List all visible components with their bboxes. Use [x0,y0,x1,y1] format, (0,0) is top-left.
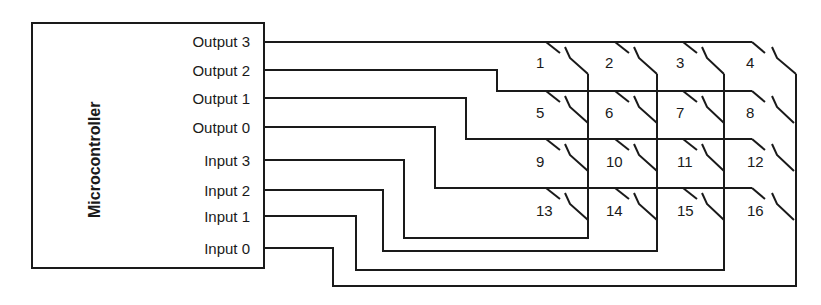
switch-12: 12 [747,139,794,171]
microcontroller-label: Microcontroller [86,102,103,218]
switch-3: 3 [676,42,724,74]
svg-text:5: 5 [536,104,544,121]
pin-label-input-0: Input 0 [204,240,250,257]
pin-label-output-3: Output 3 [192,33,250,50]
svg-text:14: 14 [606,202,623,219]
wire-input-1 [264,74,724,270]
svg-text:3: 3 [676,54,684,71]
svg-text:12: 12 [747,153,764,170]
switch-14: 14 [606,188,657,220]
svg-text:16: 16 [747,202,764,219]
switch-4: 4 [746,42,796,74]
microcontroller-block [32,23,264,268]
svg-text:11: 11 [677,153,693,170]
pin-label-output-1: Output 1 [192,90,250,107]
pin-label-input-3: Input 3 [204,152,250,169]
svg-text:2: 2 [605,54,613,71]
switch-8: 8 [746,91,794,123]
switch-15: 15 [677,188,724,220]
svg-text:6: 6 [605,104,613,121]
svg-text:7: 7 [676,104,684,121]
svg-text:1: 1 [536,54,544,71]
switch-16: 16 [747,188,794,220]
switch-1: 1 [536,42,588,74]
pin-label-output-2: Output 2 [192,62,250,79]
switch-10: 10 [606,139,657,171]
switch-2: 2 [605,42,657,74]
switch-6: 6 [605,91,657,123]
svg-text:13: 13 [536,202,553,219]
switch-7: 7 [676,91,724,123]
pin-label-input-2: Input 2 [204,182,250,199]
svg-text:8: 8 [746,104,754,121]
wire-input-2 [264,74,657,251]
wire-input-0 [264,74,796,286]
pin-label-input-1: Input 1 [204,208,250,225]
switch-9: 9 [536,139,588,171]
svg-text:15: 15 [677,202,694,219]
keypad-matrix-diagram: Microcontroller Output 3 Output 2 Output… [0,0,821,305]
pin-label-output-0: Output 0 [192,119,250,136]
switch-5: 5 [536,91,588,123]
wire-output-2 [264,70,752,91]
switch-grid: 1 2 3 4 5 6 7 8 [536,42,796,220]
svg-text:9: 9 [536,153,544,170]
switch-13: 13 [536,188,588,220]
svg-text:4: 4 [746,54,754,71]
switch-11: 11 [677,139,724,171]
svg-text:10: 10 [606,153,623,170]
